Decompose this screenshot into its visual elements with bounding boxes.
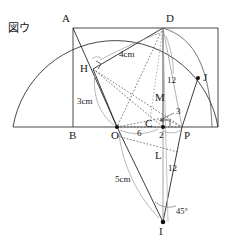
segment-p-j <box>182 78 198 127</box>
right-angle-mark-h <box>96 61 101 69</box>
point-label-J: J <box>203 72 207 83</box>
point-label-B: B <box>69 130 76 141</box>
geometry-canvas <box>0 0 230 248</box>
vertex-dot-c <box>161 125 165 129</box>
vertex-dot-j <box>196 76 200 80</box>
segment-d-o-dashed <box>117 28 163 127</box>
brace-arc-12-upper <box>166 36 173 74</box>
point-label-P: P <box>184 130 190 141</box>
measure-label-2: 2 <box>159 131 164 140</box>
measure-label-6: 6 <box>137 129 142 138</box>
vertex-dot-i <box>161 220 166 225</box>
point-label-M: M <box>155 92 165 103</box>
figure-tag: 図ウ <box>8 23 30 34</box>
measure-label-3: 3 <box>176 107 181 116</box>
point-label-H: H <box>80 63 88 74</box>
segment-h-c-dashed <box>93 69 163 127</box>
point-label-I: I <box>159 226 163 237</box>
point-label-A: A <box>62 13 70 24</box>
measure-label-4cm: 4cm <box>119 50 135 59</box>
point-label-L: L <box>155 150 162 161</box>
segment-d-i-helper <box>163 28 168 222</box>
segment-d-m-dashed <box>150 28 163 120</box>
point-label-D: D <box>166 13 174 24</box>
point-label-O: O <box>111 130 119 141</box>
point-label-C: C <box>145 118 152 129</box>
segment-o-l-lower-dashed <box>117 136 178 152</box>
right-angle-mark-c <box>164 120 170 126</box>
measure-label-3cm: 3cm <box>77 97 93 106</box>
geometry-figure: 図ウ A D H J M C B O P L I 4cm 3cm 5cm 12 … <box>0 0 230 248</box>
semicircle-arc-path <box>13 41 218 127</box>
measure-label-5cm: 5cm <box>115 175 131 184</box>
measure-label-45-degrees: 45° <box>176 207 188 216</box>
angle-arc-h <box>92 57 101 59</box>
segment-o-c-dashed <box>117 118 163 127</box>
angle-arc-i-45 <box>155 202 176 207</box>
measure-label-12-lower: 12 <box>168 164 177 173</box>
measure-label-12-upper: 12 <box>167 76 176 85</box>
